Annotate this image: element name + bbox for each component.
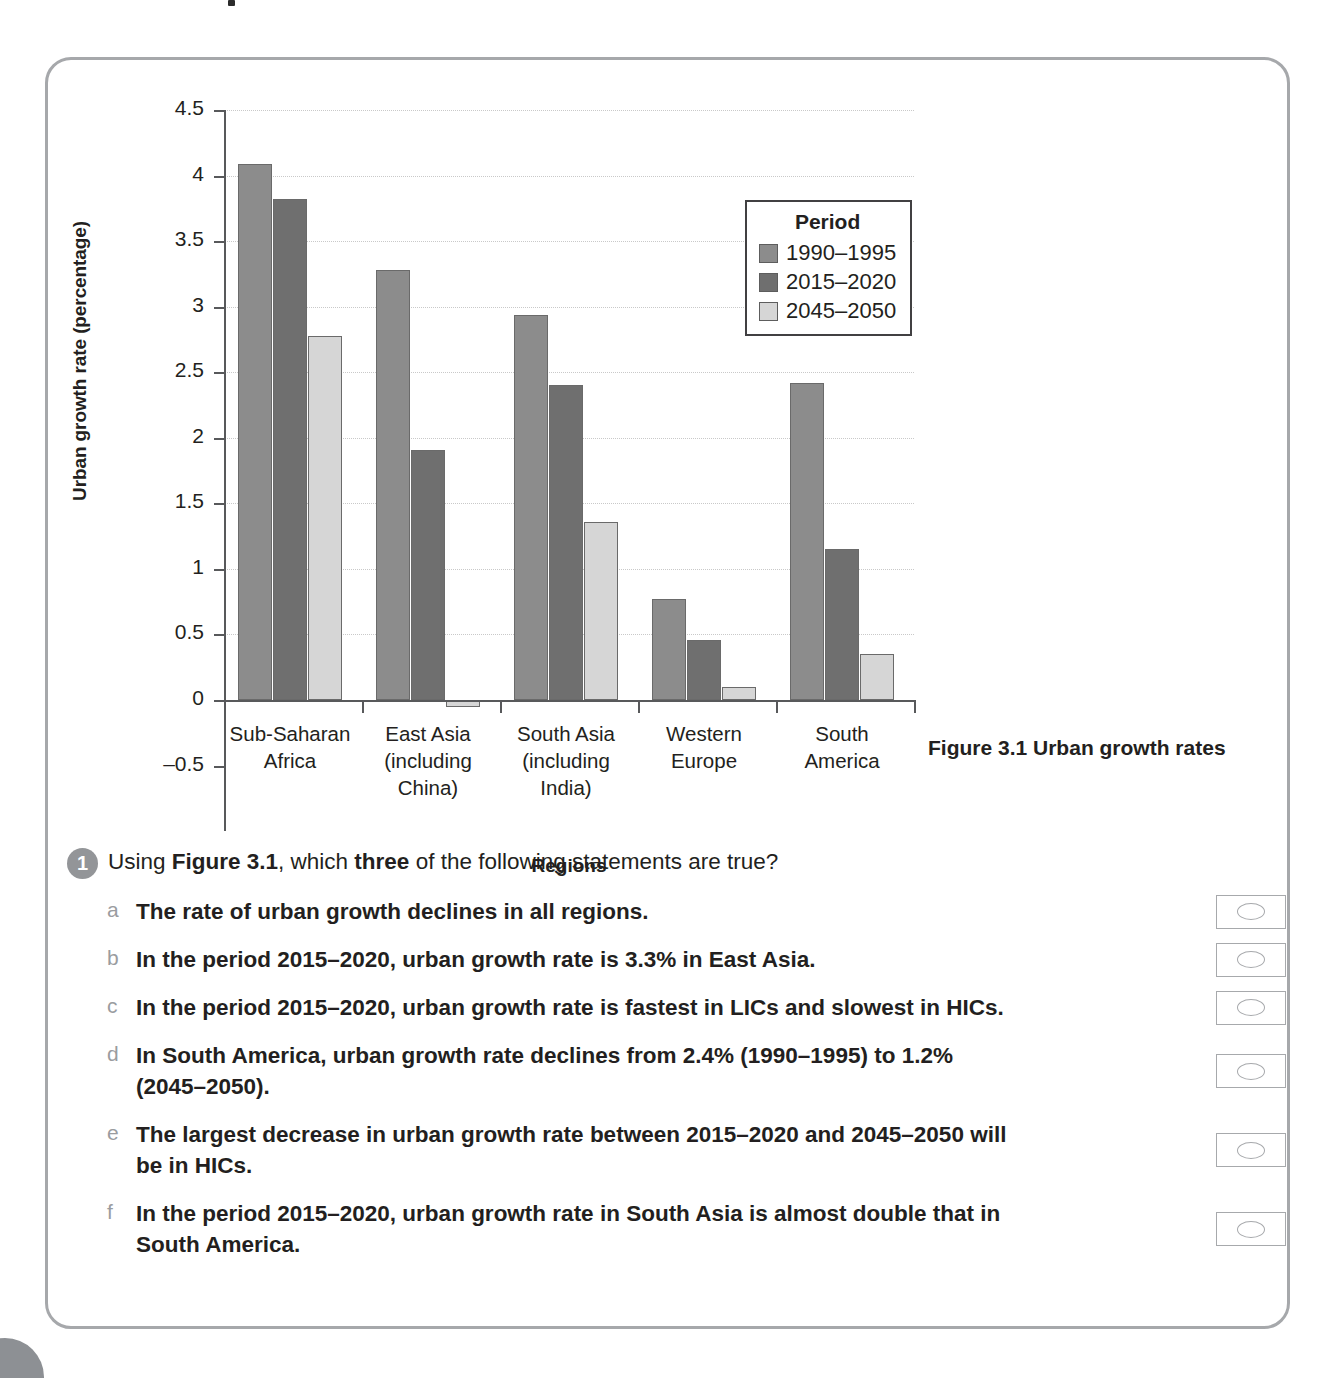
prompt-emphasis: three <box>354 849 409 874</box>
statement-text: In the period 2015–2020, urban growth ra… <box>136 944 815 975</box>
stray-text-mark <box>228 0 235 6</box>
answer-oval-icon <box>1237 951 1265 968</box>
statement-row: bIn the period 2015–2020, urban growth r… <box>65 944 1280 975</box>
page-number-marker <box>0 1338 44 1378</box>
statement-text: In the period 2015–2020, urban growth ra… <box>136 1198 1016 1260</box>
x-axis-tick <box>362 700 364 713</box>
plot-area <box>224 110 914 700</box>
statement-letter: b <box>107 946 122 970</box>
y-axis-tick-label: 0.5 <box>138 620 204 644</box>
legend-item: 2045–2050 <box>759 298 896 324</box>
answer-checkbox[interactable] <box>1216 943 1286 977</box>
bar <box>652 599 686 700</box>
statement-list: aThe rate of urban growth declines in al… <box>65 896 1280 1260</box>
answer-checkbox[interactable] <box>1216 1054 1286 1088</box>
answer-checkbox[interactable] <box>1216 1133 1286 1167</box>
question-number-badge: 1 <box>67 848 98 879</box>
bar <box>549 385 583 700</box>
statement-row: eThe largest decrease in urban growth ra… <box>65 1119 1280 1181</box>
statement-letter: e <box>107 1121 122 1145</box>
x-axis-tick <box>776 700 778 713</box>
x-axis-tick <box>638 700 640 713</box>
bar <box>411 450 445 700</box>
legend-swatch-icon <box>759 302 778 321</box>
statement-row: dIn South America, urban growth rate dec… <box>65 1040 1280 1102</box>
activity-panel: Urban growth rate (percentage) 4.543.532… <box>45 57 1290 1329</box>
x-axis-tick <box>914 700 916 713</box>
prompt-text: , which <box>278 849 354 874</box>
y-axis-tick-label: 2.5 <box>138 358 204 382</box>
y-axis-tick-label: 3 <box>138 293 204 317</box>
y-axis-tick <box>214 307 225 309</box>
answer-oval-icon <box>1237 999 1265 1016</box>
answer-oval-icon <box>1237 903 1265 920</box>
statement-text: The largest decrease in urban growth rat… <box>136 1119 1016 1181</box>
statement-text: The rate of urban growth declines in all… <box>136 896 649 927</box>
y-axis-tick <box>214 176 225 178</box>
statement-text: In the period 2015–2020, urban growth ra… <box>136 992 1004 1023</box>
answer-checkbox[interactable] <box>1216 895 1286 929</box>
legend-item-label: 1990–1995 <box>786 240 896 266</box>
y-axis-tick <box>214 438 225 440</box>
chart-legend: Period 1990–19952015–20202045–2050 <box>745 200 912 336</box>
legend-item: 1990–1995 <box>759 240 896 266</box>
y-axis-tick-label: 2 <box>138 424 204 448</box>
statement-letter: f <box>107 1200 122 1224</box>
bar <box>376 270 410 700</box>
question-header: 1 Using Figure 3.1, which three of the f… <box>65 847 1280 879</box>
legend-item: 2015–2020 <box>759 269 896 295</box>
bar <box>308 336 342 700</box>
statement-letter: d <box>107 1042 122 1066</box>
y-axis-tick <box>214 372 225 374</box>
bar-chart: Urban growth rate (percentage) 4.543.532… <box>48 60 928 835</box>
legend-item-label: 2015–2020 <box>786 269 896 295</box>
x-axis-category-label: SouthAmerica <box>752 720 932 774</box>
bar <box>825 549 859 700</box>
bar <box>687 640 721 700</box>
x-axis-line <box>224 700 916 702</box>
bar <box>273 199 307 700</box>
answer-oval-icon <box>1237 1063 1265 1080</box>
answer-oval-icon <box>1237 1142 1265 1159</box>
y-axis-tick <box>214 241 225 243</box>
y-axis-tick <box>214 503 225 505</box>
y-axis-tick-label: 1 <box>138 555 204 579</box>
bar <box>584 522 618 700</box>
statement-row: fIn the period 2015–2020, urban growth r… <box>65 1198 1280 1260</box>
bar <box>722 687 756 700</box>
statement-letter: c <box>107 994 122 1018</box>
y-axis-title: Urban growth rate (percentage) <box>69 141 91 581</box>
answer-oval-icon <box>1237 1221 1265 1238</box>
prompt-text: of the following statements are true? <box>409 849 778 874</box>
answer-checkbox[interactable] <box>1216 1212 1286 1246</box>
legend-title: Period <box>759 210 896 234</box>
y-axis-tick-label: 1.5 <box>138 489 204 513</box>
legend-item-label: 2045–2050 <box>786 298 896 324</box>
y-axis-tick <box>214 634 225 636</box>
y-axis-tick-label: –0.5 <box>138 752 204 776</box>
y-axis-tick <box>214 569 225 571</box>
bars-layer <box>224 110 914 700</box>
legend-swatch-icon <box>759 273 778 292</box>
bar <box>860 654 894 700</box>
y-axis-tick <box>214 700 225 702</box>
statement-row: aThe rate of urban growth declines in al… <box>65 896 1280 927</box>
bar <box>790 383 824 700</box>
bar <box>514 315 548 700</box>
prompt-emphasis: Figure 3.1 <box>172 849 278 874</box>
y-axis-tick <box>214 110 225 112</box>
answer-checkbox[interactable] <box>1216 991 1286 1025</box>
bar <box>238 164 272 700</box>
statement-row: cIn the period 2015–2020, urban growth r… <box>65 992 1280 1023</box>
y-axis-tick-label: 4 <box>138 162 204 186</box>
y-axis-tick-label: 4.5 <box>138 96 204 120</box>
y-axis-tick-label: 3.5 <box>138 227 204 251</box>
statement-text: In South America, urban growth rate decl… <box>136 1040 1016 1102</box>
question-block: 1 Using Figure 3.1, which three of the f… <box>65 847 1280 1260</box>
prompt-text: Using <box>108 849 172 874</box>
figure-caption: Figure 3.1 Urban growth rates <box>928 736 1226 760</box>
legend-swatch-icon <box>759 244 778 263</box>
statement-letter: a <box>107 898 122 922</box>
y-axis-tick-label: 0 <box>138 686 204 710</box>
question-prompt: Using Figure 3.1, which three of the fol… <box>108 847 778 877</box>
